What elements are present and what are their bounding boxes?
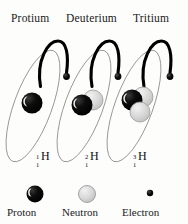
legend-glyphs bbox=[0, 0, 188, 224]
legend-neutron-icon bbox=[79, 186, 96, 203]
legend-label-neutron: Neutron bbox=[62, 206, 98, 218]
legend-electron-icon bbox=[147, 190, 153, 196]
legend-label-proton: Proton bbox=[7, 206, 36, 218]
hydrogen-isotopes-figure: Protium Deuterium Tritium bbox=[0, 0, 188, 224]
legend-label-electron: Electron bbox=[122, 206, 159, 218]
